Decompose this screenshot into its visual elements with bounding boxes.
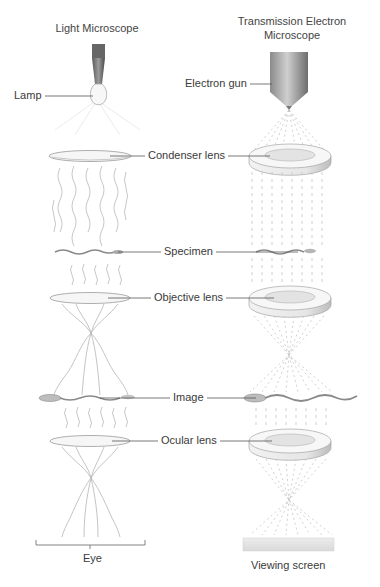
tem-objective-lens-icon <box>249 286 331 317</box>
electron-gun-icon <box>270 52 308 110</box>
tem-ocular-rays-icon <box>250 459 332 535</box>
ocular-lens-label: Ocular lens <box>158 434 220 447</box>
microscope-comparison-diagram: Light Microscope Transmission Electron M… <box>0 0 380 587</box>
tem-ocular-lens-icon <box>249 429 331 460</box>
condenser-lens-label: Condenser lens <box>145 149 228 162</box>
tem-title-line2: Microscope <box>222 28 362 42</box>
light-waves-3-icon <box>65 407 128 428</box>
image-label: Image <box>170 391 207 404</box>
tem-condenser-lens-icon <box>249 144 331 175</box>
eye-bracket-icon <box>36 540 145 549</box>
viewing-screen-icon <box>243 538 334 551</box>
tem-image-icon <box>244 394 357 402</box>
light-eye-rays-icon <box>62 447 120 537</box>
eye-label: Eye <box>80 552 105 565</box>
light-focus-rays-icon <box>54 304 128 395</box>
tem-title-line1: Transmission Electron <box>222 14 362 28</box>
lamp-icon <box>55 44 140 135</box>
tem-beam-mid-icon <box>256 408 326 428</box>
electron-beam-parallel-icon <box>252 172 322 284</box>
tem-title: Transmission Electron Microscope <box>222 14 362 42</box>
light-waves-icon <box>53 166 128 246</box>
light-specimen-icon <box>55 250 115 254</box>
tem-specimen-icon <box>256 249 316 254</box>
light-waves-2-icon <box>71 264 122 285</box>
tem-objective-rays-icon <box>250 316 332 392</box>
viewing-screen-label: Viewing screen <box>248 559 328 572</box>
objective-lens-label: Objective lens <box>151 291 226 304</box>
light-microscope-title: Light Microscope <box>47 21 147 35</box>
leader-lines <box>44 84 298 441</box>
specimen-label: Specimen <box>161 245 216 258</box>
electron-gun-label: Electron gun <box>182 77 250 90</box>
lamp-label: Lamp <box>14 89 45 102</box>
